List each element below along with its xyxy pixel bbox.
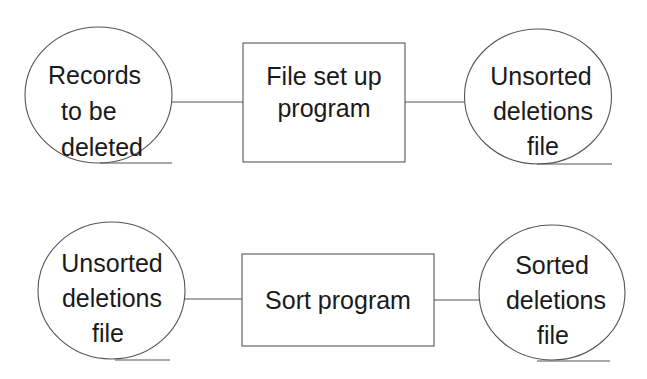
node-label-line: Unsorted	[490, 62, 591, 90]
node-label-line: program	[277, 94, 370, 122]
node-label-line: Records	[48, 61, 141, 89]
node-label-line: to be	[61, 97, 117, 125]
node-label-line: File set up	[266, 62, 381, 90]
node-label-line: file	[537, 321, 569, 349]
node-label-line: deletions	[493, 97, 593, 125]
process-node-file-set-up-program: File set up program	[243, 43, 405, 162]
node-label-line: deleted	[61, 133, 143, 161]
tape-node-records-to-be-deleted: Records to be deleted	[25, 27, 172, 163]
node-label-line: Unsorted	[61, 249, 162, 277]
tape-node-unsorted-deletions-file: Unsorted deletions file	[465, 29, 613, 164]
node-label-line: Sort program	[265, 286, 411, 314]
process-node-sort-program: Sort program	[242, 254, 434, 346]
node-label-line: Sorted	[515, 251, 589, 279]
node-label-line: deletions	[506, 286, 606, 314]
tape-node-unsorted-deletions-file-input: Unsorted deletions file	[38, 222, 185, 360]
flowchart-canvas: Records to be deleted File set up progra…	[0, 0, 647, 379]
node-label-line: file	[92, 319, 124, 347]
node-label-line: file	[527, 132, 559, 160]
node-label-line: deletions	[62, 284, 162, 312]
tape-node-sorted-deletions-file: Sorted deletions file	[479, 225, 625, 361]
